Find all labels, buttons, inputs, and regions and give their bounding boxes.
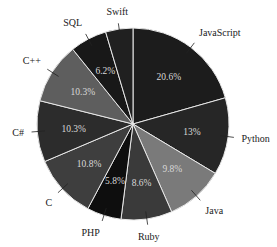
category-label-javascript: JavaScript [199,27,241,38]
category-label-java: Java [205,205,223,216]
percent-label-php: 5.8% [105,176,125,186]
category-label-swift: Swift [106,6,128,17]
category-label-sql: SQL [63,17,82,28]
category-label-csharp: C# [12,127,24,138]
category-label-python: Python [241,133,269,144]
category-label-php: PHP [81,227,100,238]
pie-chart: 20.6%13%9.8%8.6%5.8%10.8%10.3%10.3%6.2% … [0,0,277,247]
category-label-cpp: C++ [23,55,41,66]
percent-label-cpp: 10.3% [71,87,96,97]
category-label-ruby: Ruby [138,231,160,242]
percent-label-c: 10.8% [77,159,102,169]
percent-label-csharp: 10.3% [61,124,86,134]
percent-label-sql: 6.2% [95,66,115,76]
percent-label-python: 13% [183,127,201,137]
percent-label-ruby: 8.6% [132,178,152,188]
category-label-c: C [46,197,53,208]
percent-label-java: 9.8% [162,164,182,174]
percent-label-javascript: 20.6% [157,72,182,82]
